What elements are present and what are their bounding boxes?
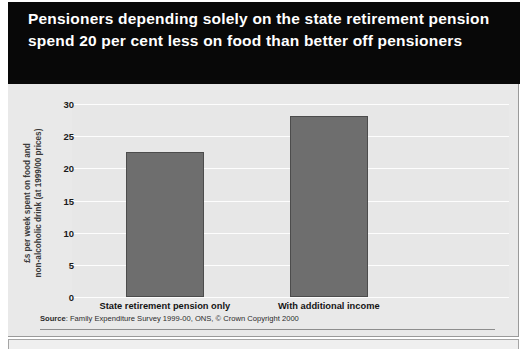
y-axis-title: £s per week spent on food and non-alcoho… bbox=[22, 96, 44, 310]
bar bbox=[126, 152, 204, 297]
source-divider bbox=[40, 329, 495, 330]
chart-panel: £s per week spent on food and non-alcoho… bbox=[8, 84, 519, 337]
gridline bbox=[72, 104, 509, 105]
figure-header-band: Pensioners depending solely on the state… bbox=[8, 2, 520, 84]
figure-panel: Pensioners depending solely on the state… bbox=[8, 2, 520, 339]
y-axis-tick-label: 30 bbox=[44, 99, 74, 110]
x-axis-category-label: State retirement pension only bbox=[100, 301, 231, 311]
y-axis-tick-label: 0 bbox=[44, 292, 74, 303]
source-label: Source bbox=[40, 314, 66, 323]
y-axis-title-line-2: non-alcoholic drink (at 1999/00 prices) bbox=[34, 129, 43, 278]
y-axis-title-line-1: £s per week spent on food and bbox=[23, 143, 32, 263]
y-axis-tick-label: 20 bbox=[44, 163, 74, 174]
y-axis-tick-label: 5 bbox=[44, 259, 74, 270]
y-axis-tick-label: 10 bbox=[44, 227, 74, 238]
next-figure-sliver bbox=[8, 339, 519, 349]
source-text: : Family Expenditure Survey 1999-00, ONS… bbox=[66, 314, 299, 323]
y-axis-tick-label: 25 bbox=[44, 131, 74, 142]
y-axis-tick-label: 15 bbox=[44, 195, 74, 206]
plot-area bbox=[72, 104, 509, 297]
gridline bbox=[72, 297, 509, 298]
bar bbox=[290, 116, 368, 297]
x-axis-category-label: With additional income bbox=[278, 301, 380, 311]
y-axis-title-text: £s per week spent on food and non-alcoho… bbox=[22, 129, 44, 278]
figure-title: Pensioners depending solely on the state… bbox=[28, 8, 506, 52]
source-note: Source: Family Expenditure Survey 1999-0… bbox=[40, 314, 299, 323]
